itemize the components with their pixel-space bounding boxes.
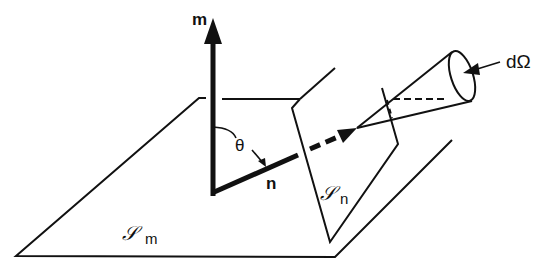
vector-m-arrow bbox=[204, 18, 222, 196]
label-surface-m: 𝒮 m bbox=[122, 222, 158, 247]
surface-n-symbol: 𝒮 bbox=[320, 182, 341, 204]
surface-m-subscript: m bbox=[145, 230, 158, 247]
diagram-canvas: m n θ dΩ 𝒮 m 𝒮 n bbox=[0, 0, 558, 276]
surface-n-subscript: n bbox=[340, 190, 348, 207]
solid-angle-cone bbox=[357, 48, 480, 128]
label-vector-n: n bbox=[266, 174, 276, 193]
surface-n-plane bbox=[292, 68, 398, 242]
label-vector-m: m bbox=[192, 10, 207, 29]
label-angle-theta: θ bbox=[235, 136, 244, 155]
vector-n-arrow bbox=[212, 128, 357, 193]
label-surface-n: 𝒮 n bbox=[320, 182, 348, 207]
label-solid-angle: dΩ bbox=[506, 51, 531, 72]
surface-m-symbol: 𝒮 bbox=[122, 222, 143, 244]
